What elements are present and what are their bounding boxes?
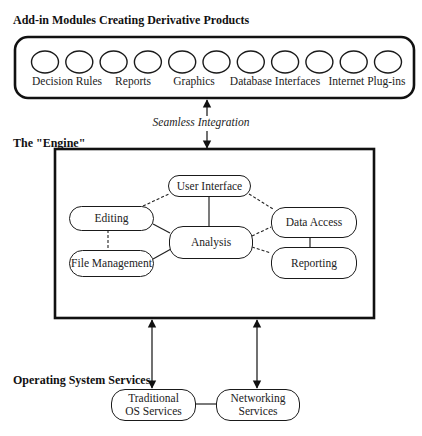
module-label-database-interfaces: Database Interfaces (230, 75, 320, 87)
node-traditional-os-services: Traditional OS Services (111, 389, 196, 421)
module-circle (100, 51, 127, 73)
os-section-title: Operating System Services (13, 373, 150, 388)
connection-filemgmt-analysis (153, 249, 171, 259)
module-label-reports: Reports (115, 75, 151, 87)
connection-analysis-reporting (252, 247, 271, 253)
node-data-access-label: Data Access (286, 216, 343, 229)
module-circle (375, 51, 402, 73)
module-label-graphics: Graphics (173, 75, 215, 87)
connection-analysis-dataaccess (252, 227, 271, 236)
module-label-internet-plugins: Internet Plug-ins (329, 75, 406, 87)
module-circle (237, 51, 264, 73)
node-user-interface-label: User Interface (177, 180, 242, 193)
modules-section-title: Add-in Modules Creating Derivative Produ… (13, 13, 249, 28)
node-traditional-line1: Traditional (128, 392, 179, 405)
node-reporting: Reporting (271, 247, 357, 279)
node-networking-line2: Services (239, 405, 278, 418)
integration-label: Seamless Integration (153, 116, 250, 128)
modules-container (15, 37, 414, 98)
node-traditional-line2: OS Services (125, 405, 182, 418)
node-editing-label: Editing (95, 212, 129, 225)
connection-editing-analysis (153, 224, 170, 233)
module-circle (272, 51, 299, 73)
node-editing: Editing (69, 206, 154, 231)
module-circle (32, 51, 59, 73)
engine-section-title: The "Engine" (13, 136, 85, 151)
module-circle (66, 51, 93, 73)
node-networking-services: Networking Services (216, 389, 300, 421)
node-file-management: File Management (69, 250, 154, 277)
node-analysis-label: Analysis (191, 236, 231, 249)
diagram-canvas (0, 0, 422, 436)
module-circles (32, 51, 402, 73)
module-circle (134, 51, 161, 73)
module-label-decision-rules: Decision Rules (32, 75, 102, 87)
node-reporting-label: Reporting (291, 257, 337, 270)
module-circle (306, 51, 333, 73)
node-data-access: Data Access (271, 207, 357, 238)
node-networking-line1: Networking (231, 392, 286, 405)
node-user-interface: User Interface (168, 175, 251, 197)
module-circle (169, 51, 196, 73)
connection-ui-dataaccess (249, 194, 273, 209)
node-file-management-label: File Management (71, 257, 152, 270)
node-analysis: Analysis (169, 226, 253, 259)
connection-editing-ui (143, 194, 169, 206)
module-circle (340, 51, 367, 73)
module-circle (203, 51, 230, 73)
